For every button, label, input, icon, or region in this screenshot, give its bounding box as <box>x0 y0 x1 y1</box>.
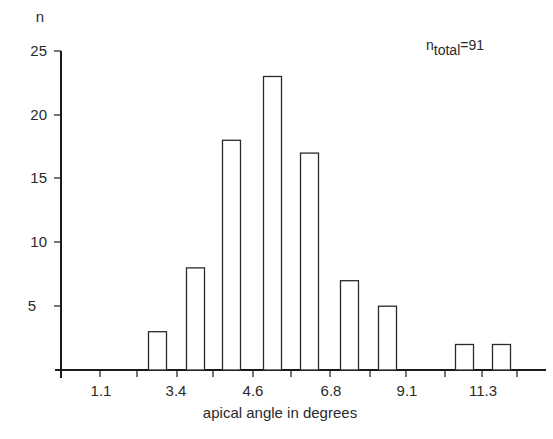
histogram-bar <box>187 268 205 370</box>
y-ticks <box>54 51 61 306</box>
x-tick-9-1: 9.1 <box>397 382 418 399</box>
histogram-bar <box>223 140 241 370</box>
n-total-base: n <box>426 37 434 53</box>
x-tick-6-8: 6.8 <box>321 382 342 399</box>
n-total-annotation: ntotal=91 <box>426 37 484 58</box>
y-tick-10: 10 <box>30 233 47 250</box>
y-tick-15: 15 <box>30 169 47 186</box>
y-tick-labels: 25 20 15 10 5 <box>28 42 47 314</box>
histogram-bar <box>301 153 319 370</box>
histogram-bar <box>379 306 397 370</box>
y-tick-20: 20 <box>30 106 47 123</box>
bars <box>149 77 511 371</box>
n-total-subscript: total <box>434 42 460 58</box>
y-tick-5: 5 <box>28 297 36 314</box>
x-axis-title: apical angle in degrees <box>203 404 357 421</box>
y-tick-25: 25 <box>30 42 47 59</box>
histogram-bar <box>456 345 474 371</box>
histogram-bar <box>341 281 359 370</box>
x-tick-4-6: 4.6 <box>243 382 264 399</box>
x-tick-labels: 1.1 3.4 4.6 6.8 9.1 11.3 <box>91 382 497 399</box>
histogram-bar <box>264 77 282 371</box>
histogram-chart: 25 20 15 10 5 n 1.1 3.4 4.6 6.8 9.1 11.3… <box>0 0 553 439</box>
y-axis-title: n <box>36 8 44 25</box>
x-tick-1-1: 1.1 <box>91 382 112 399</box>
histogram-bar <box>149 332 167 370</box>
x-ticks <box>100 370 517 377</box>
histogram-bar <box>493 345 511 371</box>
x-tick-11-3: 11.3 <box>469 382 497 399</box>
n-total-suffix: =91 <box>460 37 484 53</box>
x-tick-3-4: 3.4 <box>166 382 187 399</box>
